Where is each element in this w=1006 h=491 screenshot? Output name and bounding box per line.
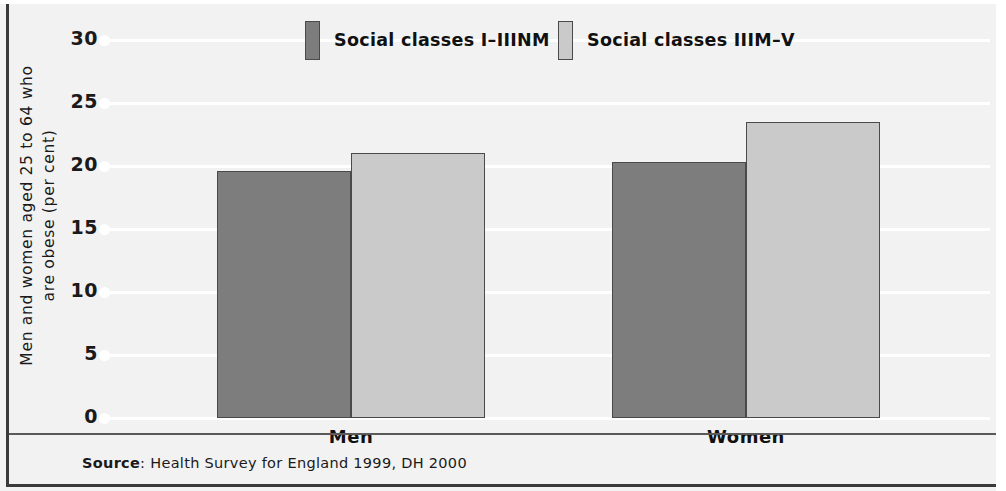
gridline-knob-15: [99, 224, 110, 235]
y-tick-label-25: 25: [54, 90, 98, 112]
y-axis-title: Men and women aged 25 to 64 whoare obese…: [16, 5, 61, 425]
legend-label-1: Social classes I–IIINM: [334, 30, 550, 50]
legend-swatch-2: [558, 21, 573, 60]
y-axis-title-line-2: are obese (per cent): [38, 5, 60, 425]
y-tick-label-5: 5: [54, 342, 98, 364]
bar-women-series-2: [746, 122, 880, 418]
gridline-25: [105, 102, 990, 105]
legend-entry-2: Social classes IIIM–V: [558, 18, 795, 62]
x-label-men: Men: [217, 426, 485, 447]
frame-top-edge: [0, 0, 1006, 4]
gridline-knob-5: [99, 350, 110, 361]
chart-figure: 302520151050 Men and women aged 25 to 64…: [0, 0, 1006, 491]
plot-area: [105, 40, 990, 418]
gridline-knob-25: [99, 98, 110, 109]
source-text: Health Survey for England 1999, DH 2000: [150, 455, 467, 471]
source-note: Source: Health Survey for England 1999, …: [82, 455, 467, 471]
bar-men-series-2: [351, 153, 485, 418]
bar-women-series-1: [612, 162, 746, 418]
y-tick-label-30: 30: [54, 27, 98, 49]
gridline-knob-30: [99, 35, 110, 46]
x-label-women: Women: [612, 426, 880, 447]
y-axis-title-line-1: Men and women aged 25 to 64 who: [16, 5, 38, 425]
frame-bottom-rule: [6, 484, 1002, 487]
y-tick-label-20: 20: [54, 153, 98, 175]
frame-left-rule: [6, 4, 9, 487]
gridline-knob-20: [99, 161, 110, 172]
source-separator: :: [140, 455, 150, 471]
bar-men-series-1: [217, 171, 351, 418]
legend-entry-1: Social classes I–IIINM: [305, 18, 550, 62]
y-tick-label-15: 15: [54, 216, 98, 238]
y-tick-label-10: 10: [54, 279, 98, 301]
gridline-knob-10: [99, 287, 110, 298]
y-tick-label-0: 0: [54, 405, 98, 427]
legend-swatch-1: [305, 21, 320, 60]
gridline-knob-0: [99, 413, 110, 424]
legend-label-2: Social classes IIIM–V: [587, 30, 795, 50]
source-label: Source: [82, 455, 140, 471]
source-divider-rule: [9, 433, 996, 435]
frame-right-edge: [996, 0, 1006, 491]
